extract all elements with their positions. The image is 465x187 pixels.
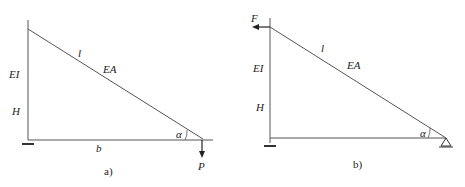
arrow-head-down-icon	[199, 151, 205, 158]
label-ei: EI	[8, 68, 21, 80]
label-h: H	[255, 101, 265, 113]
inclined-bar-b	[270, 27, 446, 138]
caption-a: a)	[104, 165, 113, 178]
label-alpha: α	[420, 127, 426, 139]
label-alpha: α	[176, 128, 182, 140]
angle-arc-icon	[185, 130, 187, 140]
label-l: l	[78, 47, 81, 59]
label-ei: EI	[252, 62, 265, 74]
caption-b: b)	[353, 158, 363, 171]
label-l: l	[321, 42, 324, 54]
label-ea: EA	[102, 63, 117, 75]
inclined-bar-a	[28, 29, 203, 139]
structural-diagrams: EI H l EA b α P a) F EI H l EA α b)	[0, 0, 465, 187]
pin-support-icon	[441, 138, 451, 146]
diagram-a: EI H l EA b α P a)	[8, 20, 213, 178]
diagram-b: F EI H l EA α b)	[250, 12, 453, 171]
label-p: P	[197, 160, 205, 172]
angle-arc-icon	[428, 128, 430, 138]
label-h: H	[11, 105, 21, 117]
label-b: b	[96, 142, 102, 154]
label-ea: EA	[346, 59, 361, 71]
arrow-head-left-icon	[252, 24, 259, 30]
label-f: F	[250, 12, 258, 24]
